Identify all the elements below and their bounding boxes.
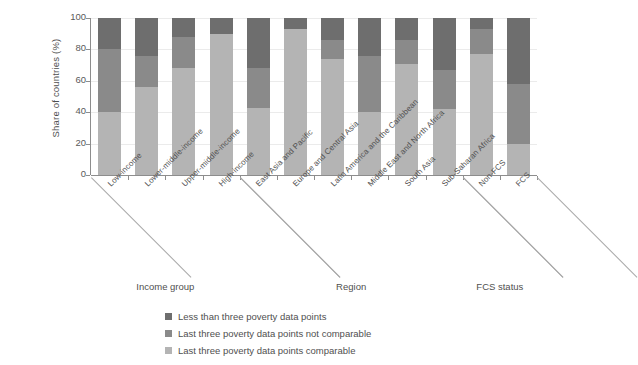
bar-segment[interactable] [358, 56, 381, 113]
bar-segment[interactable] [98, 112, 121, 175]
group-label: Region [281, 281, 421, 292]
bar-segment[interactable] [507, 144, 530, 175]
x-axis-tick-mark [277, 176, 278, 180]
x-axis-tick-mark [165, 176, 166, 180]
legend-swatch [165, 330, 172, 337]
y-axis-line [90, 18, 91, 175]
bar-segment[interactable] [433, 70, 456, 109]
bar-segment[interactable] [247, 108, 270, 176]
bar-segment[interactable] [247, 68, 270, 107]
bar-segment[interactable] [321, 18, 344, 40]
bar-segment[interactable] [172, 18, 195, 37]
bar-segment[interactable] [210, 18, 233, 34]
bar-segment[interactable] [470, 18, 493, 29]
legend-swatch [165, 313, 172, 320]
bar-segment[interactable] [284, 18, 307, 29]
legend-label: Less than three poverty data points [178, 310, 326, 323]
group-label: FCS status [430, 281, 570, 292]
x-axis-tick-mark [314, 176, 315, 180]
bar-segment[interactable] [395, 40, 418, 64]
group-bracket-diagonal [463, 177, 563, 277]
legend-label: Last three poverty data points comparabl… [178, 344, 355, 357]
group-bracket-diagonal [91, 177, 191, 277]
x-axis-tick-mark [128, 176, 129, 180]
x-axis-tick-mark [203, 176, 204, 180]
y-axis-tick-label: 100 [60, 12, 86, 22]
bar-segment[interactable] [358, 18, 381, 56]
bar-segment[interactable] [433, 18, 456, 70]
y-axis-tick-label: 60 [60, 75, 86, 85]
bar-segment[interactable] [247, 18, 270, 68]
x-axis-tick-mark [500, 176, 501, 180]
y-axis-tick-mark [86, 175, 90, 176]
y-axis-tick-label: 20 [60, 138, 86, 148]
legend-label: Last three poverty data points not compa… [178, 327, 371, 340]
bar-segment[interactable] [98, 49, 121, 112]
group-bracket-diagonal [537, 177, 637, 277]
bar-segment[interactable] [507, 18, 530, 84]
x-axis-tick-mark [426, 176, 427, 180]
bar[interactable] [507, 18, 530, 175]
y-axis-tick-label: 40 [60, 106, 86, 116]
bar[interactable] [433, 18, 456, 175]
bar-segment[interactable] [470, 29, 493, 54]
bar-segment[interactable] [98, 18, 121, 49]
x-axis-tick-mark [351, 176, 352, 180]
group-bracket-diagonal [240, 177, 340, 277]
y-axis-tick-label: 80 [60, 43, 86, 53]
bar-segment[interactable] [395, 18, 418, 40]
bar-segment[interactable] [172, 37, 195, 68]
bar-segment[interactable] [507, 84, 530, 144]
bar-segment[interactable] [321, 40, 344, 59]
y-axis-tick-label: 0 [60, 169, 86, 179]
bar-segment[interactable] [135, 56, 158, 87]
x-axis-tick-mark [388, 176, 389, 180]
group-label: Income group [95, 281, 235, 292]
bar-segment[interactable] [135, 18, 158, 56]
bar[interactable] [98, 18, 121, 175]
legend-swatch [165, 347, 172, 354]
